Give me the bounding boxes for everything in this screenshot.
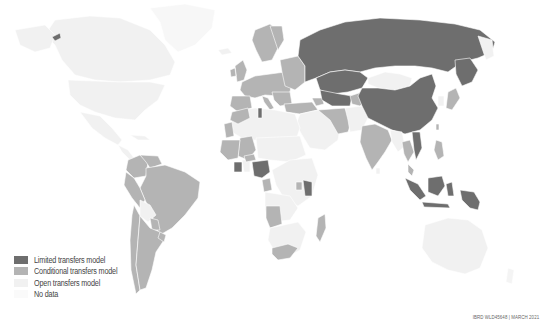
region-india (360, 124, 392, 170)
region-west-africa (220, 140, 240, 160)
legend-label: Limited transfers model (34, 255, 105, 265)
region-west-sahara (224, 122, 234, 138)
region-thailand (402, 140, 414, 162)
legend-label: Open transfers model (34, 278, 100, 288)
legend-item-limited: Limited transfers model (14, 254, 132, 265)
legend-swatch-limited (14, 256, 28, 264)
region-korea (438, 96, 444, 106)
region-uganda (296, 182, 302, 190)
region-new-guinea (460, 190, 480, 210)
region-sumatra (405, 178, 426, 200)
region-nigeria (252, 160, 270, 178)
region-sulawesi (446, 182, 454, 196)
region-new-zealand (506, 268, 514, 284)
legend-item-no-data: No data (14, 289, 132, 300)
legend-item-open: Open transfers model (14, 277, 132, 288)
region-russia-far-east (455, 58, 478, 86)
region-philippines (434, 140, 444, 160)
region-malaysia (408, 164, 414, 176)
region-sahel (256, 136, 306, 162)
region-vietnam (412, 132, 422, 160)
legend: Limited transfers model Conditional tran… (14, 254, 132, 300)
legend-label: Conditional transfers model (34, 266, 117, 276)
region-ireland (230, 68, 236, 77)
map-credit: IBRD WLD45648 | MARCH 2021 (472, 314, 539, 320)
legend-swatch-conditional (14, 267, 28, 275)
region-uk (235, 60, 247, 82)
region-italy (262, 96, 274, 110)
legend-swatch-open (14, 279, 28, 287)
region-japan (446, 88, 460, 110)
region-alaska (15, 25, 55, 52)
region-taiwan (436, 124, 439, 130)
region-borneo (428, 176, 445, 196)
legend-item-conditional: Conditional transfers model (14, 266, 132, 277)
region-caribbean (130, 135, 150, 140)
region-angola (266, 206, 282, 228)
region-java (422, 202, 450, 208)
legend-label: No data (34, 289, 58, 299)
region-tunisia (258, 108, 262, 118)
region-brazil (140, 165, 200, 235)
region-central-america (118, 145, 134, 160)
legend-swatch-no-data (14, 290, 28, 298)
region-australia (422, 218, 488, 274)
region-madagascar (316, 214, 326, 242)
region-sri-lanka (376, 168, 380, 174)
region-iceland (218, 48, 232, 55)
region-cote-divoire (234, 162, 242, 172)
region-canada (45, 16, 175, 82)
region-cameroon (262, 178, 272, 192)
